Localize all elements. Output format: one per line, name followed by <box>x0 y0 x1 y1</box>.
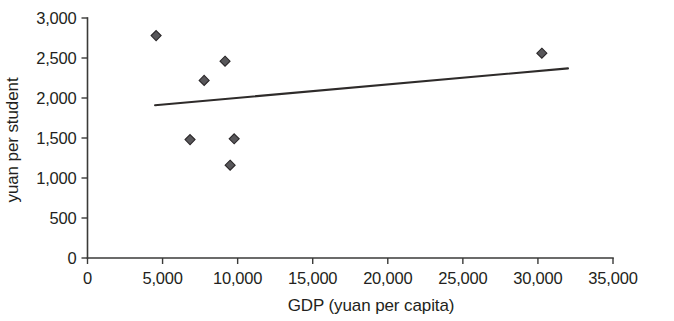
x-tick-label: 5,000 <box>142 269 182 287</box>
data-point-marker <box>151 31 161 41</box>
y-tick-label: 0 <box>68 249 77 267</box>
data-point-marker <box>225 160 235 170</box>
x-axis-title: GDP (yuan per capita) <box>288 296 455 315</box>
x-tick-label: 35,000 <box>588 269 637 287</box>
scatter-plot-svg: 05001,0001,5002,0002,5003,000 05,00010,0… <box>0 0 674 321</box>
x-tick-label: 0 <box>83 269 92 287</box>
x-tick-label: 20,000 <box>363 269 412 287</box>
data-point-marker <box>185 135 195 145</box>
y-tick-label: 1,500 <box>36 129 76 147</box>
y-axis: 05001,0001,5002,0002,5003,000 <box>36 9 87 267</box>
data-point-marker <box>220 56 230 66</box>
data-point-marker <box>199 75 209 85</box>
y-tick-label: 1,000 <box>36 169 76 187</box>
trend-line-path <box>155 68 568 105</box>
scatter-chart-figure: 05001,0001,5002,0002,5003,000 05,00010,0… <box>0 0 674 321</box>
x-tick-label: 15,000 <box>288 269 337 287</box>
x-tick-label: 25,000 <box>438 269 487 287</box>
x-tick-label: 30,000 <box>513 269 562 287</box>
x-axis: 05,00010,00015,00020,00025,00030,00035,0… <box>83 258 638 287</box>
data-point-marker <box>537 48 547 58</box>
y-tick-label: 2,500 <box>36 49 76 67</box>
y-tick-label: 500 <box>50 209 77 227</box>
trend-line <box>155 68 568 105</box>
y-axis-title: yuan per student <box>3 77 22 202</box>
data-point-marker <box>229 134 239 144</box>
y-tick-label: 3,000 <box>36 9 76 27</box>
y-tick-label: 2,000 <box>36 89 76 107</box>
x-tick-label: 10,000 <box>213 269 262 287</box>
